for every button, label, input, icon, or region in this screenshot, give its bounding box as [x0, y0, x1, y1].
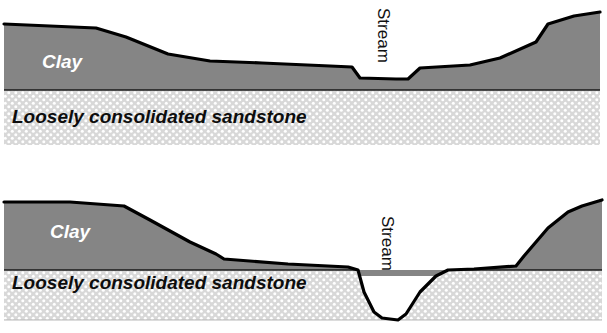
- clay-layer-top: [0, 0, 607, 95]
- stream-label-top: Stream: [374, 8, 393, 63]
- stream-label-bottom: Stream: [378, 216, 397, 271]
- clay-layer-bottom: [0, 166, 607, 276]
- clay-label-bottom: Clay: [50, 221, 92, 242]
- clay-label-top: Clay: [42, 51, 84, 72]
- cross-section-panel-top: Clay Loosely consolidated sandstone Stre…: [0, 0, 607, 166]
- geologic-cross-section-figure: Clay Loosely consolidated sandstone Stre…: [0, 0, 607, 333]
- cross-section-panel-bottom: Clay Loosely consolidated sandstone Stre…: [0, 166, 607, 333]
- sandstone-label-bottom: Loosely consolidated sandstone: [12, 272, 307, 293]
- sandstone-label-top: Loosely consolidated sandstone: [12, 106, 307, 127]
